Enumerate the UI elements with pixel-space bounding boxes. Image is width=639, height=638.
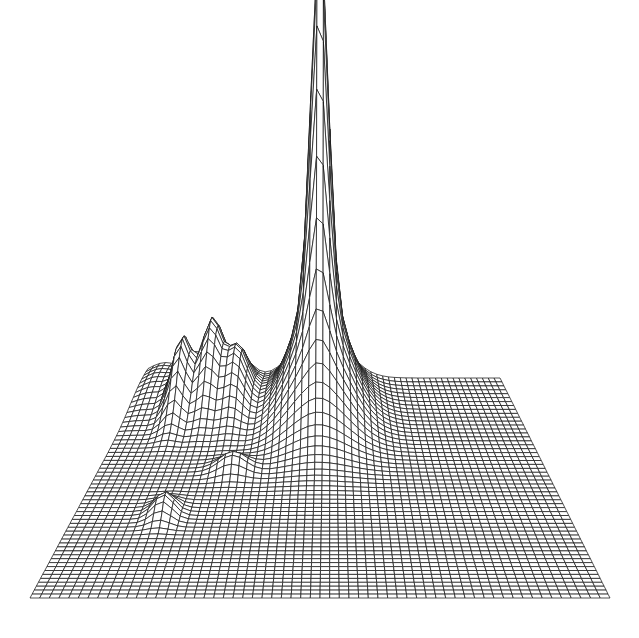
surface-plot — [0, 0, 639, 638]
wireframe-mesh — [30, 0, 610, 598]
